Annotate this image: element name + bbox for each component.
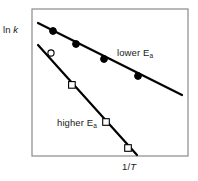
plot-canvas xyxy=(0,0,198,181)
arrhenius-plot-figure: ln k 1/T lower Ea higher Ea xyxy=(0,0,198,181)
higher-ea-label: higher Ea xyxy=(57,117,97,128)
y-axis-label-variable: k xyxy=(13,24,18,35)
x-axis-label-variable: T xyxy=(130,161,136,172)
higher-ea-label-subscript: a xyxy=(93,122,97,129)
lower-ea-trendline xyxy=(38,23,182,95)
lower-ea-label-text: lower E xyxy=(117,47,149,58)
lower-ea-point-1 xyxy=(50,28,57,35)
lower-ea-point-3 xyxy=(101,56,108,63)
x-axis-label: 1/T xyxy=(122,161,136,172)
higher-ea-point-3 xyxy=(103,119,110,126)
y-axis-label: ln k xyxy=(3,24,18,35)
lower-ea-point-2 xyxy=(73,41,80,48)
higher-ea-point-4 xyxy=(125,145,132,152)
higher-ea-trendline xyxy=(38,45,137,155)
lower-ea-point-4 xyxy=(135,73,142,80)
higher-ea-point-2 xyxy=(69,82,76,89)
lower-ea-label-subscript: a xyxy=(149,52,153,59)
higher-ea-point-1 xyxy=(48,50,54,56)
higher-ea-label-text: higher E xyxy=(57,117,93,128)
lower-ea-label: lower Ea xyxy=(117,47,153,58)
y-axis-label-text: ln xyxy=(3,24,11,35)
x-axis-label-text: 1/ xyxy=(122,161,130,172)
